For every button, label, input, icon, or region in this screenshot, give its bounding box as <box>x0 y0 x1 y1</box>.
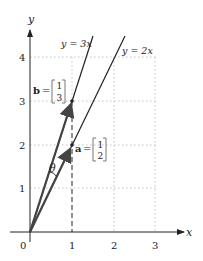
y-tick-2: 2 <box>19 140 25 151</box>
svg-text:=: = <box>83 143 91 154</box>
svg-text:1: 1 <box>57 81 63 91</box>
line-label-y-2x: y = 2x <box>121 45 153 56</box>
y-tick-3: 3 <box>19 96 25 107</box>
svg-text:1: 1 <box>98 140 104 150</box>
vector-a-label: a = 1 2 <box>75 138 106 161</box>
vector-angle-diagram: θ y x 0 1 2 3 1 2 3 4 y = 3x y = 2x b = … <box>0 0 203 261</box>
svg-text:3: 3 <box>57 93 63 103</box>
point-a <box>70 143 74 147</box>
point-b <box>70 99 74 103</box>
x-axis-label: x <box>186 226 193 239</box>
y-tick-4: 4 <box>19 52 25 63</box>
x-tick-2: 2 <box>111 240 117 251</box>
svg-text:2: 2 <box>98 151 104 161</box>
svg-text:b: b <box>33 85 40 96</box>
svg-text:=: = <box>42 85 50 96</box>
x-tick-1: 1 <box>69 240 75 251</box>
plot-canvas: θ y x 0 1 2 3 1 2 3 4 y = 3x y = 2x b = … <box>0 0 203 261</box>
x-tick-3: 3 <box>152 240 158 251</box>
y-axis-label: y <box>27 13 35 26</box>
svg-text:a: a <box>75 143 82 154</box>
vector-b-label: b = 1 3 <box>33 80 65 103</box>
y-tick-1: 1 <box>19 183 25 194</box>
angle-theta-label: θ <box>49 162 56 175</box>
line-label-y-3x: y = 3x <box>60 38 92 49</box>
x-tick-0: 0 <box>20 240 26 251</box>
